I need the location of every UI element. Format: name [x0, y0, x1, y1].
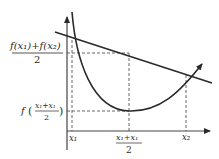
label-x1: x₁ [69, 133, 77, 143]
label-lower-open-paren: ( [28, 105, 32, 118]
chord-line [55, 32, 212, 83]
label-upper-denominator: 2 [34, 54, 40, 65]
label-lower-close-paren: ) [59, 105, 63, 118]
label-upper-numerator: f(x₁)+f(x₂) [9, 40, 61, 51]
convexity-diagram: f(x₁)+f(x₂) 2 f ( x₁+x₁ 2 ) x₁ x₁+x₁ 2 x… [0, 0, 219, 159]
label-f-midpoint: f ( x₁+x₁ 2 ) [20, 101, 63, 122]
label-x2: x₂ [182, 132, 191, 142]
label-mid-denominator: 2 [126, 145, 132, 155]
label-lower-denominator: 2 [44, 113, 49, 122]
label-lower-f: f [20, 105, 27, 116]
label-chord-midpoint-value: f(x₁)+f(x₂) 2 [9, 40, 63, 65]
convex-curve [72, 12, 202, 111]
label-mid-numerator: x₁+x₁ [116, 133, 138, 142]
dashed-guides [67, 40, 186, 131]
label-lower-numerator: x₁+x₁ [35, 101, 56, 110]
label-x-midpoint: x₁+x₁ 2 [116, 133, 142, 155]
